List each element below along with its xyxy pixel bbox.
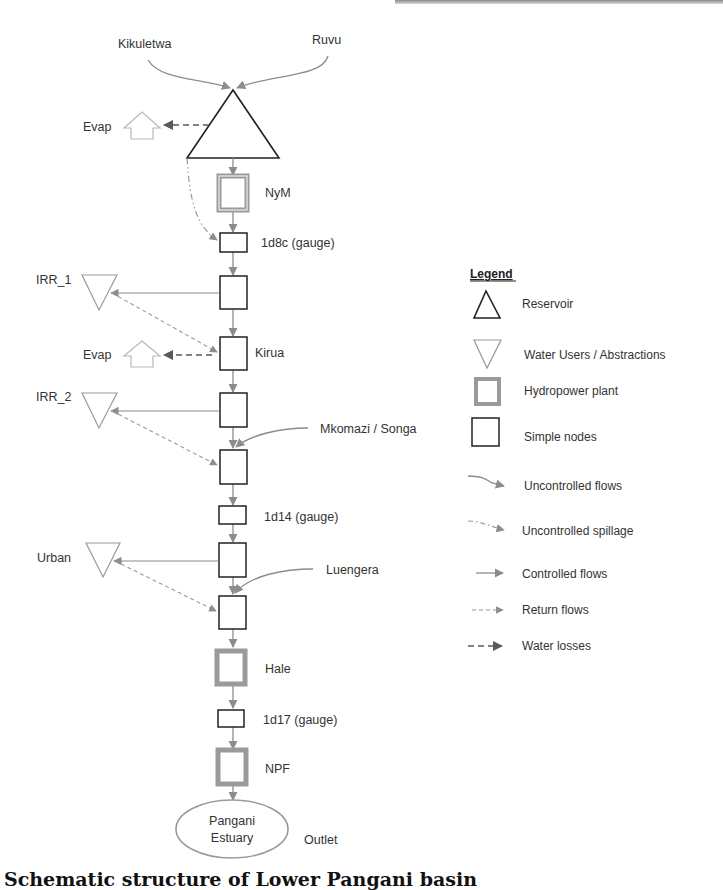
label-urban: Urban [37,551,71,565]
label-luengera: Luengera [326,563,379,577]
legend-spillage-icon [468,521,504,530]
label-hale: Hale [265,662,291,676]
label-mkomazi-songa: Mkomazi / Songa [320,422,417,436]
legend-label-water-users: Water Users / Abstractions [524,348,666,362]
legend-hydropower-icon [476,379,499,404]
hydropower-npf-icon [218,750,246,784]
return-urban-arrow [115,561,216,611]
label-evap-reservoir: Evap [83,120,112,134]
legend-simple-node-icon [472,418,499,446]
legend-water-user-icon [474,340,501,368]
label-estuary-line2: Estuary [211,831,254,845]
estuary-outlet-node [176,800,288,858]
simple-node-urban [219,543,246,577]
label-1d17: 1d17 (gauge) [263,713,337,727]
label-outlet: Outlet [304,833,338,847]
legend-label-hydropower: Hydropower plant [524,384,619,398]
label-1d8c: 1d8c (gauge) [261,236,335,250]
water-user-urban-icon [86,543,120,577]
label-irr1: IRR_1 [36,273,71,287]
hydropower-nym-icon [219,176,247,210]
gauge-1d8c-node [220,233,247,252]
simple-node-irr1 [220,276,247,309]
reservoir-icon [187,90,279,158]
label-evap-kirua: Evap [83,348,112,362]
legend-label-return-flows: Return flows [522,603,589,617]
legend: Legend Reservoir Water Users / Abstracti… [468,267,666,653]
return-irr1-arrow [112,293,217,352]
legend-title: Legend [470,267,513,281]
simple-node-irr2 [220,393,247,427]
figure-caption: Schematic structure of Lower Pangani bas… [4,868,477,890]
legend-label-simple-nodes: Simple nodes [524,430,597,444]
inflow-kikuletwa [148,60,230,88]
legend-reservoir-icon [474,291,500,318]
label-1d14: 1d14 (gauge) [264,510,338,524]
legend-label-spillage: Uncontrolled spillage [522,524,634,538]
legend-label-reservoir: Reservoir [522,297,573,311]
return-irr2-arrow [112,411,217,465]
legend-label-uncontrolled-flows: Uncontrolled flows [524,479,622,493]
basin-schematic: Kikuletwa Ruvu Evap NyM 1d8c (gauge) IRR… [0,0,723,890]
label-kirua: Kirua [255,346,284,360]
gauge-1d14-node [219,506,246,524]
label-npf: NPF [265,762,290,776]
gauge-1d17-node [218,710,244,727]
simple-node-confluence-luengera [219,596,246,629]
inflow-mkomazi-arrow [236,428,308,447]
label-nym: NyM [265,186,291,200]
evap-icon [124,112,160,139]
legend-label-controlled-flows: Controlled flows [522,567,607,581]
legend-label-water-losses: Water losses [522,639,591,653]
simple-node-confluence-mkomazi [220,450,247,484]
label-kikuletwa: Kikuletwa [118,37,172,51]
simple-node-kirua [220,337,247,370]
inflow-ruvu [237,56,328,88]
legend-uncontrolled-flow-icon [468,476,504,486]
label-estuary-line1: Pangani [209,814,255,828]
label-irr2: IRR_2 [36,390,71,404]
label-ruvu: Ruvu [312,33,341,47]
evap-kirua-icon [124,341,160,367]
hydropower-hale-icon [217,651,245,684]
spillage-arrow [187,158,217,240]
